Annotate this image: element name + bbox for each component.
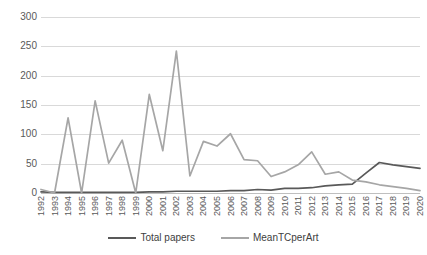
legend-item[interactable]: MeanTCperArt xyxy=(221,232,319,243)
legend-swatch-icon xyxy=(221,237,249,239)
x-tick-label: 1995 xyxy=(78,196,87,216)
series-line xyxy=(41,51,420,193)
x-tick-label: 1997 xyxy=(105,196,114,216)
x-tick-label: 2004 xyxy=(199,196,208,216)
x-tick-label: 1994 xyxy=(64,196,73,216)
x-tick-label: 2007 xyxy=(240,196,249,216)
x-tick-label: 2012 xyxy=(308,196,317,216)
series-lines xyxy=(41,17,420,193)
series-line xyxy=(41,162,420,192)
x-tick-label: 2005 xyxy=(213,196,222,216)
x-tick-label: 1992 xyxy=(37,196,46,216)
y-axis-labels: 050100150200250300 xyxy=(0,17,37,193)
y-tick-label: 250 xyxy=(1,41,37,51)
y-tick-label: 0 xyxy=(1,188,37,198)
x-tick-label: 2019 xyxy=(402,196,411,216)
chart-legend: Total papersMeanTCperArt xyxy=(0,232,427,243)
y-tick-label: 100 xyxy=(1,129,37,139)
x-tick-label: 2002 xyxy=(172,196,181,216)
x-tick-label: 1996 xyxy=(91,196,100,216)
x-tick-label: 1998 xyxy=(118,196,127,216)
x-tick-label: 2001 xyxy=(159,196,168,216)
x-tick-label: 2010 xyxy=(281,196,290,216)
x-tick-label: 1999 xyxy=(132,196,141,216)
x-tick-label: 2020 xyxy=(416,196,425,216)
x-tick-label: 2017 xyxy=(375,196,384,216)
x-tick-label: 2013 xyxy=(321,196,330,216)
x-axis-labels: 1992199319941995199619971998199920002001… xyxy=(41,196,420,230)
x-tick-label: 2015 xyxy=(348,196,357,216)
y-tick-label: 150 xyxy=(1,100,37,110)
x-tick-label: 2008 xyxy=(254,196,263,216)
line-chart: 050100150200250300 199219931994199519961… xyxy=(0,0,427,255)
x-tick-label: 2009 xyxy=(267,196,276,216)
x-tick-label: 2006 xyxy=(227,196,236,216)
y-tick-label: 300 xyxy=(1,12,37,22)
x-tick-label: 2018 xyxy=(389,196,398,216)
legend-swatch-icon xyxy=(108,237,136,239)
y-tick-label: 200 xyxy=(1,71,37,81)
x-tick-label: 2011 xyxy=(294,196,303,215)
x-tick-label: 2000 xyxy=(145,196,154,216)
x-tick-label: 2014 xyxy=(335,196,344,216)
x-tick-label: 1993 xyxy=(51,196,60,216)
x-tick-label: 2016 xyxy=(362,196,371,216)
plot-area xyxy=(41,17,420,193)
legend-label: Total papers xyxy=(140,232,194,243)
legend-label: MeanTCperArt xyxy=(253,232,319,243)
legend-item[interactable]: Total papers xyxy=(108,232,194,243)
y-tick-label: 50 xyxy=(1,159,37,169)
x-tick-label: 2003 xyxy=(186,196,195,216)
